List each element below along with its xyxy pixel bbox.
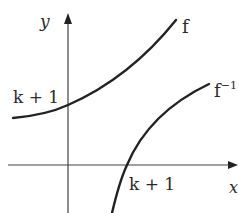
curve-f-label: f [182,16,190,37]
y-intercept-label: k + 1 [13,87,59,107]
y-axis-arrow-icon [64,13,72,24]
y-axis [64,13,72,213]
y-axis-label: y [39,11,50,31]
curve-f-inverse-label: f−1 [214,79,237,101]
x-intercept-label: k + 1 [129,174,175,194]
x-axis-label: x [229,178,238,197]
x-axis [8,161,238,169]
x-axis-arrow-icon [228,161,238,169]
inverse-function-diagram: y x f f−1 k + 1 k + 1 [0,0,239,213]
